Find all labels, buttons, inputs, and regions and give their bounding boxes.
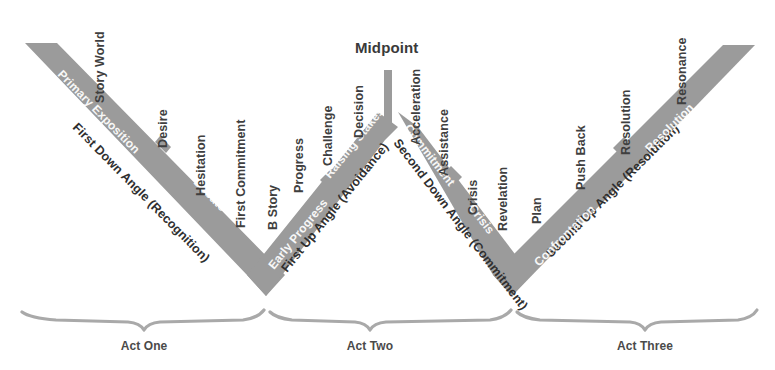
crisis-label: Crisis bbox=[466, 180, 480, 215]
act-labels: Act One Act Two Act Three bbox=[121, 339, 674, 353]
plan-label: Plan bbox=[530, 197, 544, 224]
midpoint-stem bbox=[384, 70, 392, 132]
desire-label: Desire bbox=[156, 109, 170, 148]
revelation-label: Revelation bbox=[496, 167, 510, 231]
assistance-label: Assistance bbox=[437, 109, 451, 176]
midpoint-label: Midpoint bbox=[355, 39, 418, 56]
progress-label: Progress bbox=[292, 138, 306, 193]
story-structure-diagram: Midpoint First Down Angle (Recognition) … bbox=[0, 0, 775, 370]
acceleration-label: Acceleration bbox=[409, 69, 423, 145]
act-one-label: Act One bbox=[121, 339, 168, 353]
story-world-label: Story World bbox=[93, 31, 107, 103]
act-braces bbox=[22, 310, 757, 330]
resonance-label: Resonance bbox=[675, 37, 689, 105]
challenge-label: Challenge bbox=[321, 105, 335, 166]
band-group bbox=[25, 43, 755, 296]
act-three-label: Act Three bbox=[617, 339, 673, 353]
push-back-label: Push Back bbox=[574, 125, 588, 190]
decision-label: Decision bbox=[352, 85, 366, 138]
brace-act-one bbox=[22, 310, 264, 330]
brace-act-two bbox=[270, 310, 511, 330]
hesitation-label: Hesitation bbox=[194, 135, 208, 196]
resolution-label: Resolution bbox=[619, 89, 633, 155]
b-story-label: B Story bbox=[266, 185, 280, 230]
diagram-canvas: Midpoint First Down Angle (Recognition) … bbox=[0, 0, 775, 370]
act-two-label: Act Two bbox=[347, 339, 393, 353]
brace-act-three bbox=[517, 310, 757, 330]
first-commitment-label: First Commitment bbox=[234, 119, 248, 228]
